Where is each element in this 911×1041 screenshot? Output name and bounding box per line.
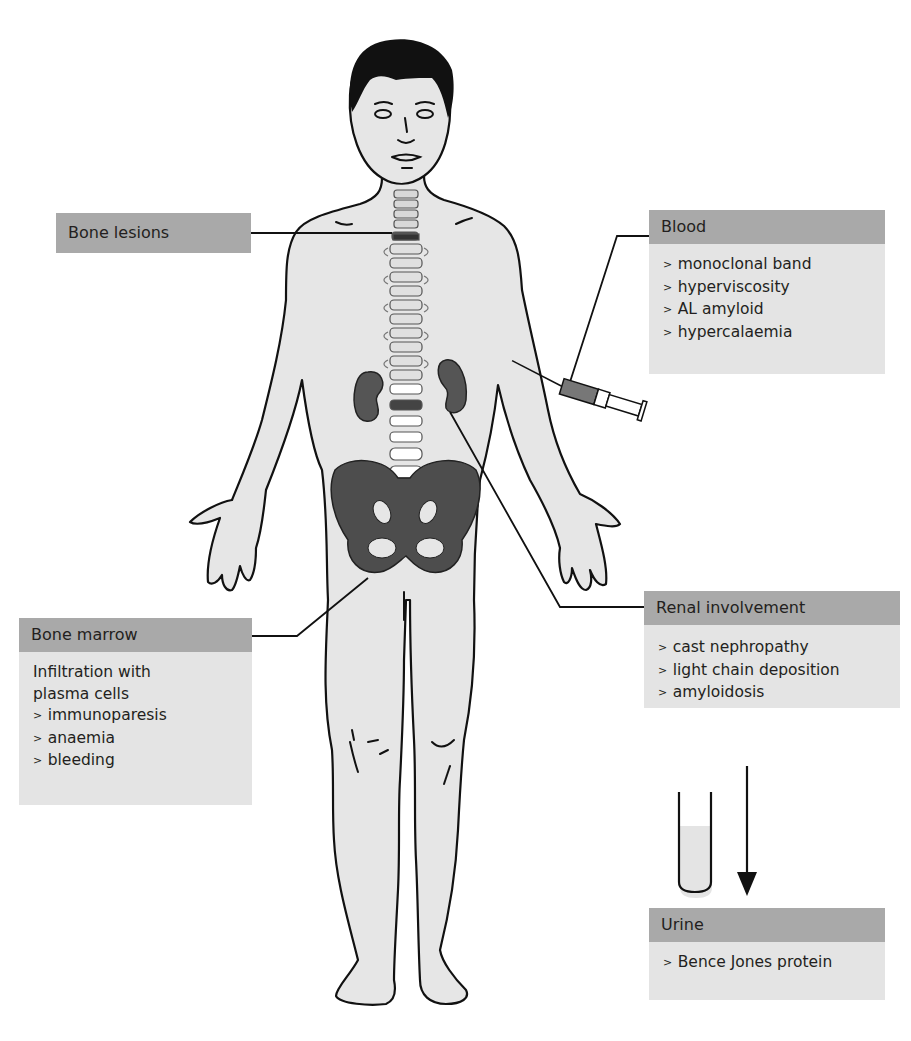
bone-marrow-item: anaemia	[33, 728, 240, 751]
bone-marrow-title: Bone marrow	[19, 618, 252, 652]
renal-involvement-label: Renal involvement cast nephropathy light…	[644, 591, 900, 708]
renal-title: Renal involvement	[644, 591, 900, 625]
blood-label: Blood monoclonal band hyperviscosity AL …	[649, 210, 885, 374]
bone-marrow-list: Infiltration with plasma cells immunopar…	[19, 652, 252, 783]
blood-item: hyperviscosity	[663, 277, 873, 300]
urine-item: Bence Jones protein	[663, 952, 873, 975]
bone-marrow-item: immunoparesis	[33, 705, 240, 728]
bone-lesions-label: Bone lesions	[56, 213, 251, 253]
blood-title: Blood	[649, 210, 885, 244]
myeloma-diagram: Bone lesions Blood monoclonal band hyper…	[0, 0, 911, 1041]
test-tube-icon	[679, 792, 712, 898]
blood-item: AL amyloid	[663, 299, 873, 322]
renal-item: amyloidosis	[658, 682, 888, 705]
body-illustration	[0, 0, 911, 1041]
blood-list: monoclonal band hyperviscosity AL amyloi…	[649, 244, 885, 354]
renal-item: cast nephropathy	[658, 637, 888, 660]
bone-marrow-label: Bone marrow Infiltration with plasma cel…	[19, 618, 252, 805]
renal-list: cast nephropathy light chain deposition …	[644, 625, 900, 715]
urine-list: Bence Jones protein	[649, 942, 885, 985]
bone-lesions-title: Bone lesions	[56, 213, 251, 253]
blood-item: monoclonal band	[663, 254, 873, 277]
bone-marrow-intro: plasma cells	[33, 684, 240, 706]
urine-title: Urine	[649, 908, 885, 942]
pelvis	[331, 461, 480, 573]
renal-item: light chain deposition	[658, 660, 888, 683]
arrow-down-icon	[737, 766, 757, 896]
leader-blood	[570, 236, 649, 382]
blood-item: hypercalaemia	[663, 322, 873, 345]
bone-marrow-item: bleeding	[33, 750, 240, 773]
bone-marrow-intro: Infiltration with	[33, 662, 240, 684]
urine-label: Urine Bence Jones protein	[649, 908, 885, 1000]
